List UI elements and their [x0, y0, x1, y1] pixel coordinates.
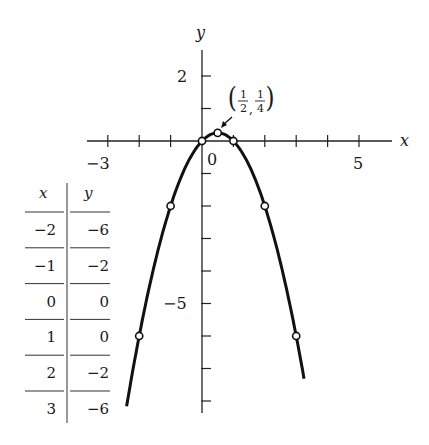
table-cell-y: −6: [87, 400, 109, 418]
table-cell-x: 2: [46, 364, 56, 382]
tick-marks: [108, 76, 359, 401]
table-cell-x: −1: [34, 257, 56, 275]
table-cell-x: 1: [46, 328, 56, 346]
table-cell-y: −2: [87, 364, 109, 382]
svg-text:): ): [266, 81, 275, 113]
svg-text:(: (: [228, 81, 237, 113]
vertex-annotation: ( 1 2 , 1 4 ): [228, 81, 275, 116]
data-point: [167, 202, 174, 209]
data-point: [136, 332, 143, 339]
table-cell-x: 0: [46, 293, 56, 311]
table-cell-y: −6: [87, 221, 109, 239]
parabola-curve: [127, 133, 304, 406]
tick-label-neg5: −5: [163, 294, 187, 313]
data-points: [136, 129, 300, 339]
svg-text:,: ,: [249, 102, 253, 116]
tick-label-5: 5: [353, 154, 363, 173]
data-point: [230, 137, 237, 144]
ann-den1: 2: [240, 102, 247, 115]
values-table: x y −2−6−1−200102−23−6: [25, 183, 110, 423]
table-header-x: x: [39, 184, 48, 202]
x-axis-label: x: [400, 131, 409, 150]
table-cell-y: 0: [99, 293, 109, 311]
tick-label-0: 0: [207, 150, 217, 169]
table-cell-x: −2: [34, 221, 56, 239]
tick-label-2: 2: [177, 67, 187, 86]
data-point: [198, 137, 205, 144]
ann-num1: 1: [240, 88, 247, 101]
table-cell-x: 3: [46, 400, 56, 418]
table-header-y: y: [83, 184, 93, 202]
parabola-plot: y x −3 0 5 2 −5 ( 1 2 , 1 4 ) x y −2−6−1…: [0, 0, 429, 445]
ann-num2: 1: [257, 88, 264, 101]
ann-den2: 4: [257, 102, 264, 115]
tick-label-neg3: −3: [86, 154, 110, 173]
data-point: [293, 332, 300, 339]
data-point: [214, 129, 221, 136]
table-cell-y: −2: [87, 257, 109, 275]
y-axis-label: y: [195, 23, 206, 42]
table-cell-y: 0: [99, 328, 109, 346]
data-point: [261, 202, 268, 209]
